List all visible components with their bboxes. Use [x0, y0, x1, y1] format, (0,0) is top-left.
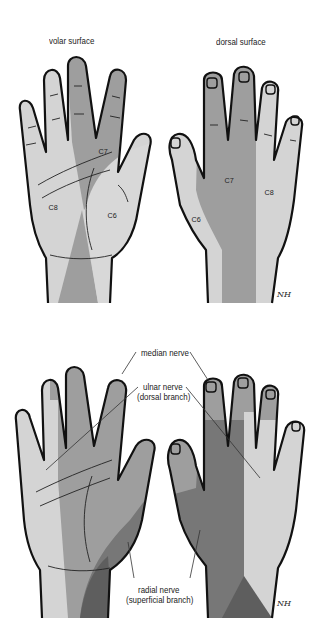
volar-surface-label: volar surface	[49, 36, 94, 46]
dorsal-c6-label: C6	[192, 215, 201, 224]
hand-innervation-figure: volar surface dorsal surface C7 C8 C6 C7…	[0, 0, 323, 636]
volar-c6-label: C6	[108, 211, 117, 220]
radial-nerve-sublabel: (superficial branch)	[126, 595, 193, 605]
volar-c8-label: C8	[49, 203, 58, 212]
ulnar-nerve-sublabel: (dorsal branch)	[137, 392, 190, 402]
dermatome-diagram	[0, 0, 323, 320]
artist-signature: NH	[277, 290, 291, 299]
dorsal-c7-label: C7	[225, 176, 234, 185]
ulnar-nerve-label: ulnar nerve	[143, 382, 183, 392]
radial-nerve-label: radial nerve	[138, 585, 179, 595]
median-nerve-label: median nerve	[141, 348, 189, 358]
dorsal-c8-label: C8	[265, 188, 274, 197]
dorsal-surface-label: dorsal surface	[216, 37, 266, 47]
artist-signature-bottom: NH	[277, 599, 291, 608]
volar-c7-label: C7	[99, 147, 108, 156]
